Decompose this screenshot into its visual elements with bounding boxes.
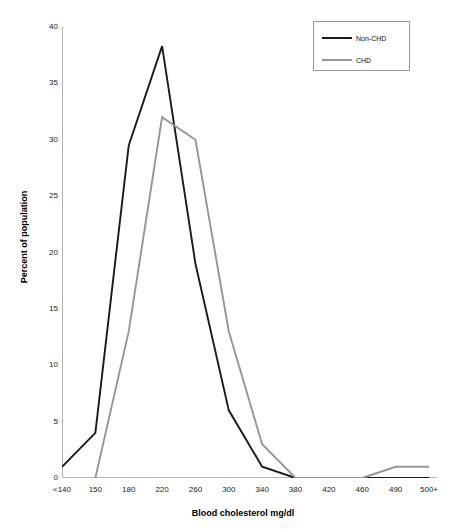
chart-title: Blood cholesterol distribution in those … [0,0,450,2]
series-line-non-chd [62,46,429,478]
chart-legend: Non-CHD CHD [313,21,410,71]
y-tick-label-30: 30 [32,136,58,144]
chart-container: Blood cholesterol distribution in those … [0,0,450,531]
y-tick-label-20: 20 [32,249,58,257]
x-axis-tick-labels: <140150180220260300340380420460490500+ [62,486,437,500]
legend-swatch-non-chd [322,37,352,39]
y-tick-label-40: 40 [32,23,58,31]
plot-svg [62,27,437,478]
y-tick-label-10: 10 [32,361,58,369]
y-tick-label-15: 15 [32,305,58,313]
plot-area [62,27,437,478]
legend-label-chd: CHD [356,57,371,64]
y-tick-label-35: 35 [32,79,58,87]
axis-lines [62,27,437,478]
legend-entry-chd: CHD [322,55,371,65]
legend-label-non-chd: Non-CHD [356,35,386,42]
y-tick-label-25: 25 [32,192,58,200]
legend-entry-non-chd: Non-CHD [322,33,386,43]
y-tick-label-5: 5 [32,418,58,426]
y-tick-label-0: 0 [32,474,58,482]
series-line-chd [95,117,429,478]
data-series-lines [62,46,429,478]
x-axis-title: Blood cholesterol mg/dl [40,508,446,518]
y-axis-tick-labels: 4035302520151050 [28,0,58,531]
x-tick-label-11: 500+ [407,486,450,494]
legend-swatch-chd [322,59,352,61]
